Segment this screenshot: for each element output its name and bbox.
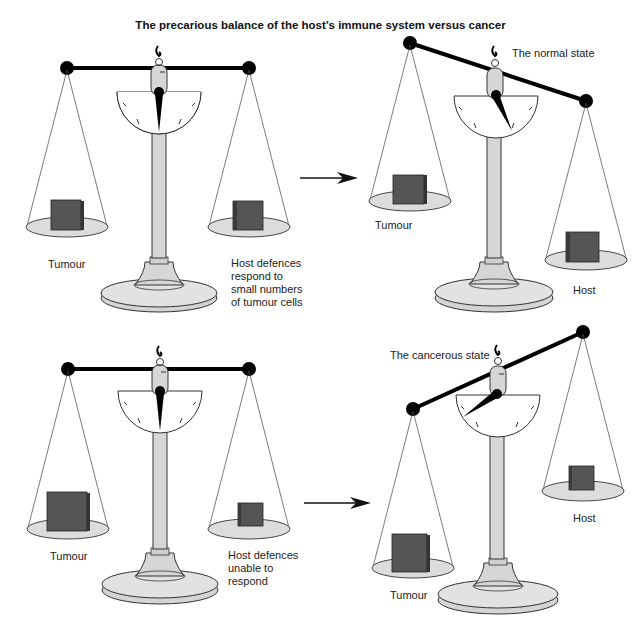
host-label: Host <box>573 284 596 297</box>
scale-top-right <box>369 36 627 312</box>
host-block <box>233 201 263 230</box>
scale-pillar <box>152 132 166 258</box>
scale-pillar <box>490 436 504 559</box>
cancerous-state-label: The cancerous state <box>390 349 490 362</box>
scale-bottom-right <box>372 325 624 614</box>
tumour-block <box>47 492 87 531</box>
diagram-canvas <box>0 0 641 627</box>
tumour-label: Tumour <box>390 589 428 602</box>
host-block <box>569 466 594 490</box>
host-defences-label: Host defences unable to respond <box>228 549 298 588</box>
tumour-block <box>51 200 81 230</box>
scale-base <box>438 558 558 614</box>
tumour-block <box>393 175 424 204</box>
host-block <box>238 503 263 526</box>
scale-base <box>435 257 553 312</box>
tumour-label: Tumour <box>50 550 88 563</box>
scale-base <box>101 257 217 312</box>
normal-state-label: The normal state <box>512 47 595 60</box>
scale-pillar <box>153 432 167 549</box>
scale-base <box>102 548 218 604</box>
scale-dial <box>456 395 540 437</box>
host-block <box>566 232 599 262</box>
host-defences-label: Host defences respond to small numbers o… <box>231 257 303 309</box>
scale-pillar <box>487 136 501 258</box>
tumour-label: Tumour <box>48 258 86 271</box>
host-label: Host <box>573 512 596 525</box>
state-label: Tumour <box>375 219 413 232</box>
tumour-block <box>392 534 427 572</box>
